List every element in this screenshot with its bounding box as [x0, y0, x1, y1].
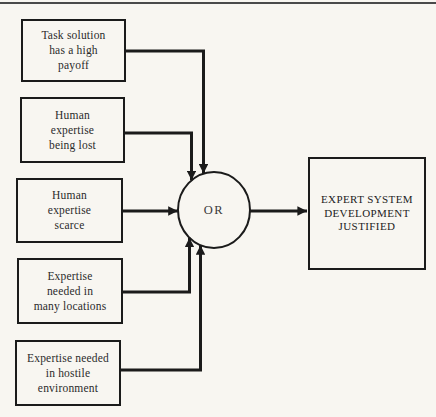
output-box-justified-label: EXPERT SYSTEM DEVELOPMENT JUSTIFIED — [321, 193, 413, 234]
connector-many-locations — [123, 238, 190, 292]
connector-expertise-being-lost — [123, 133, 192, 180]
or-gate-label: OR — [189, 202, 239, 218]
output-box-justified: EXPERT SYSTEM DEVELOPMENT JUSTIFIED — [308, 157, 426, 270]
diagram-canvas: Task solution has a high payoff Human ex… — [0, 0, 436, 417]
